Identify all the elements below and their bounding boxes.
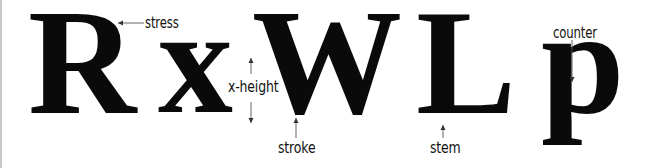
label-stroke: stroke <box>278 140 315 156</box>
glyph-L: L <box>416 0 516 137</box>
left-border-rule <box>0 0 2 168</box>
glyph-p: p <box>541 0 624 137</box>
label-stem: stem <box>430 140 461 156</box>
label-counter: counter <box>553 26 597 41</box>
glyph-W: W <box>252 0 402 137</box>
glyph-R: R <box>28 0 136 137</box>
label-x-height: x-height <box>228 79 278 95</box>
label-stress: stress <box>145 16 179 31</box>
